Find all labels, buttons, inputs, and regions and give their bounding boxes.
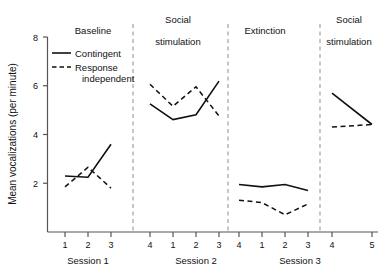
- session-label-1: Session 1: [67, 255, 109, 266]
- x-tick-label-0: 1: [62, 240, 67, 250]
- x-tick-label-12: 5: [369, 240, 374, 250]
- series-contingent-segment-social-1: [150, 81, 219, 120]
- x-tick-label-4: 1: [170, 240, 175, 250]
- series-contingent-segment-baseline: [65, 144, 111, 177]
- x-tick-label-6: 3: [216, 240, 221, 250]
- x-tick-label-1: 2: [85, 240, 90, 250]
- x-tick-label-5: 2: [193, 240, 198, 250]
- plot-area: 8 6 4 2 Mean vocalizations (per minute) …: [0, 0, 387, 275]
- x-tick-label-9: 2: [282, 240, 287, 250]
- series-response-independent-segment-social-2: [332, 125, 372, 128]
- y-tick-label-4: 4: [33, 130, 38, 140]
- x-tick-label-10: 3: [305, 240, 310, 250]
- x-tick-label-11: 4: [329, 240, 334, 250]
- chart-legend: Contingent Response independent: [52, 48, 135, 85]
- y-tick-label-2: 2: [33, 179, 38, 189]
- series-response-independent-segment-extinction: [239, 200, 308, 215]
- legend-label-response-line2: independent: [82, 73, 135, 84]
- x-tick-label-3: 4: [147, 240, 152, 250]
- chart-figure: Baseline Social stimulation Extinction S…: [0, 0, 387, 275]
- x-tick-label-8: 1: [259, 240, 264, 250]
- series-contingent-segment-extinction: [239, 185, 308, 191]
- session-label-2: Session 2: [175, 255, 217, 266]
- y-tick-label-6: 6: [33, 81, 38, 91]
- x-tick-label-7: 4: [236, 240, 241, 250]
- legend-label-contingent: Contingent: [75, 48, 121, 59]
- series-contingent-segment-social-2: [332, 93, 372, 124]
- series-contingent: [65, 81, 372, 190]
- session-label-3: Session 3: [279, 255, 321, 266]
- legend-label-response-line1: Response: [75, 62, 118, 73]
- y-axis-title: Mean vocalizations (per minute): [7, 63, 18, 205]
- y-tick-label-8: 8: [33, 33, 38, 43]
- y-axis-ticks: [43, 37, 48, 183]
- series-response-independent: [65, 84, 372, 215]
- x-tick-label-2: 3: [108, 240, 113, 250]
- x-axis-ticks: [65, 232, 372, 237]
